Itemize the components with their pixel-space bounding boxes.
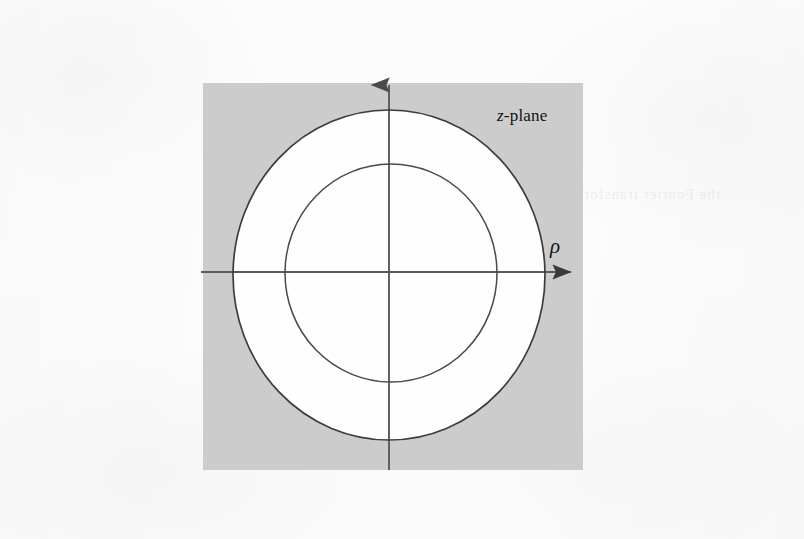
figure-page: the Fourier transform — [0, 0, 804, 539]
diagram-canvas — [0, 0, 804, 539]
z-plane-diagram — [0, 0, 804, 539]
z-plane-label-suffix: -plane — [504, 106, 548, 125]
rho-axis-label: ρ — [550, 234, 560, 259]
z-plane-label: z-plane — [497, 106, 548, 126]
z-plane-label-symbol: z — [497, 106, 504, 125]
